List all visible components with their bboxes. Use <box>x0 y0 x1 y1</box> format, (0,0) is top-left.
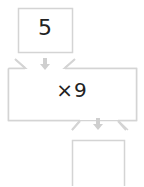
output-box <box>73 141 125 187</box>
input-value: 5 <box>18 13 72 43</box>
operation-label: ×9 <box>8 78 136 102</box>
down-arrow-icon <box>40 58 50 70</box>
